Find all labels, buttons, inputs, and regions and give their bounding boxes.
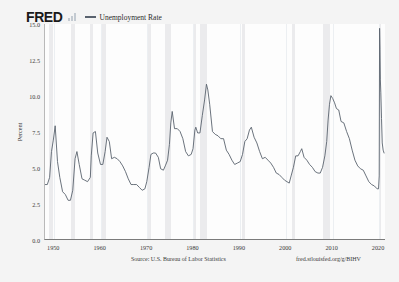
x-axis-tick-label: 2000 [279, 244, 291, 251]
x-axis-tick-label: 1950 [47, 244, 59, 251]
y-axis-tick-label: 2.5 [6, 201, 40, 208]
x-axis-tick-label: 1990 [233, 244, 245, 251]
x-axis-tick-label: 1980 [186, 244, 198, 251]
x-axis-tick-label: 2010 [325, 244, 337, 251]
y-axis-tick-label: 7.5 [6, 129, 40, 136]
y-axis-tick-label: 10.0 [6, 93, 40, 100]
fred-bar-logo-icon [68, 13, 76, 21]
y-axis-tick-label: 0.0 [6, 237, 40, 244]
source-note: Source: U.S. Bureau of Labor Statistics [131, 256, 226, 262]
chart-header: FRED Unemployment Rate [26, 9, 162, 25]
fred-wordmark: FRED [26, 10, 63, 24]
x-axis-tick-label: 1970 [140, 244, 152, 251]
y-axis-title: Percent [16, 123, 23, 142]
unemployment-rate-line [45, 24, 385, 239]
chart-legend: Unemployment Rate [85, 13, 162, 22]
y-axis-tick-label: 12.5 [6, 57, 40, 64]
legend-color-swatch [85, 16, 96, 18]
fred-chart-card: FRED Unemployment Rate 0.02.55.07.510.01… [0, 0, 399, 282]
plot-area [44, 24, 385, 240]
plot-inner [45, 24, 385, 239]
x-axis-tick-label: 2020 [372, 244, 384, 251]
chart-shortlink[interactable]: fred.stlouisfed.org/g/BIHV [296, 256, 361, 262]
legend-series-label: Unemployment Rate [100, 13, 162, 22]
y-axis-tick-label: 5.0 [6, 165, 40, 172]
x-axis-tick-label: 1960 [93, 244, 105, 251]
